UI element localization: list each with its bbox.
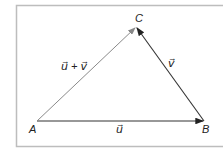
point-label-a: A — [28, 123, 36, 135]
vector-v-bc — [137, 28, 204, 121]
point-label-b: B — [202, 123, 209, 135]
point-label-c: C — [135, 12, 143, 24]
vector-label-v: v⃗ — [168, 57, 175, 69]
vector-label-u-plus-v: u⃗ + v⃗ — [61, 60, 88, 72]
vector-u-plus-v-ac — [37, 28, 135, 121]
vector-triangle-diagram: A B C u⃗ v⃗ u⃗ + v⃗ — [0, 0, 223, 154]
vector-label-u: u⃗ — [116, 123, 123, 135]
